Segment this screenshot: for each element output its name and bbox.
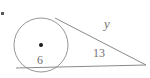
geometry-figure: y 13 6: [0, 0, 150, 78]
circle-center-dot: [39, 43, 43, 47]
label-13: 13: [93, 47, 105, 59]
label-y: y: [104, 17, 110, 30]
label-6: 6: [37, 54, 43, 66]
stray-mark: [1, 12, 4, 15]
lower-secant-line: [16, 65, 146, 68]
figure-canvas: [0, 0, 150, 78]
